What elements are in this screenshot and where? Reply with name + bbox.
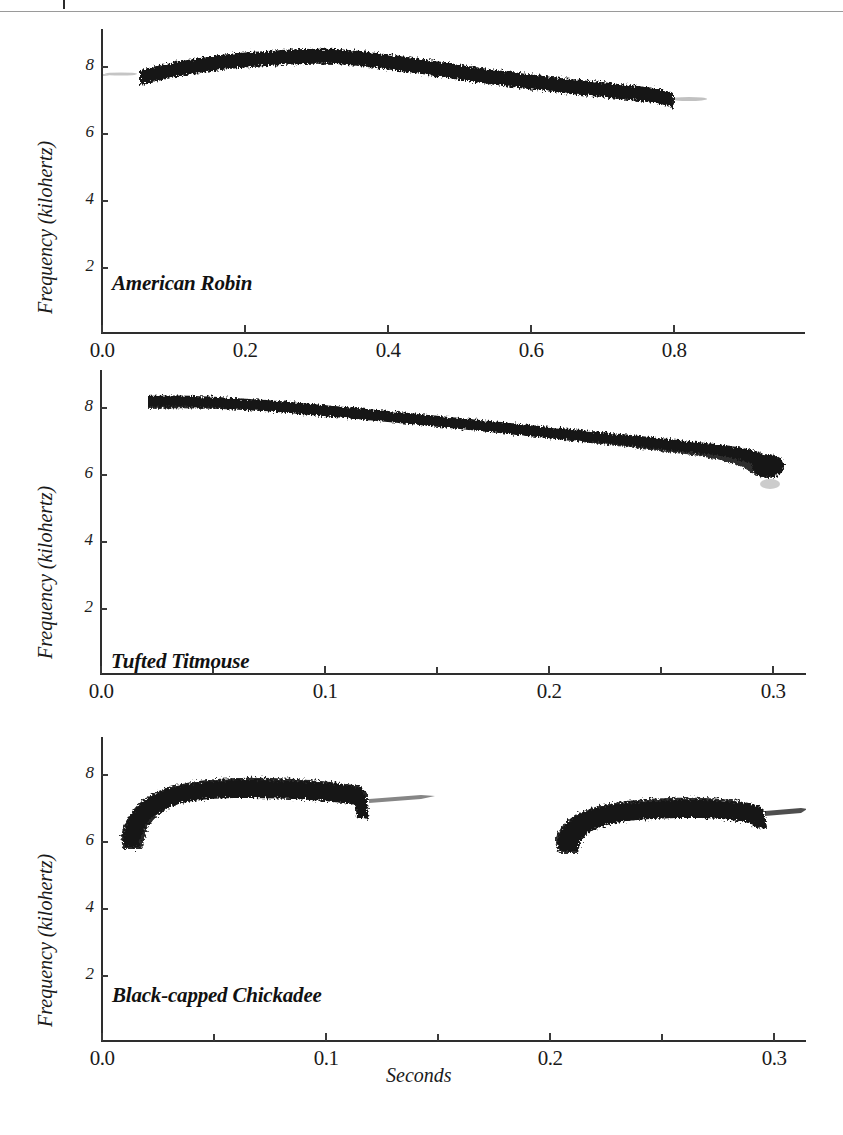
x-tick-label-2: 0.4	[353, 338, 423, 363]
panel-tufted-titmouse: Frequency (kilohertz) 8 6 4 2 0.0 0.1 0.…	[0, 367, 843, 707]
crop-mark	[63, 0, 65, 9]
y-tick-label-8: 8	[68, 55, 94, 75]
y-tick-label-6: 6	[68, 830, 94, 850]
x-axis-line	[101, 1040, 806, 1042]
top-horizontal-rule	[0, 11, 843, 12]
x-tick-label-1: 0.1	[291, 1046, 361, 1071]
y-tick-label-8: 8	[68, 763, 94, 783]
y-tick-label-6: 6	[68, 122, 94, 142]
x-axis-title: Seconds	[386, 1064, 452, 1087]
x-tick-label-1: 0.2	[210, 338, 280, 363]
x-tick-label-3: 0.6	[496, 338, 566, 363]
spectrogram-trace-chickadee	[101, 737, 806, 1040]
x-tick-label-2: 0.2	[514, 679, 584, 704]
figure-page: Frequency (kilohertz) 8 6 4 2 0.0 0.2 0.…	[0, 0, 843, 1135]
x-tick-label-1: 0.1	[290, 679, 360, 704]
y-tick-label-4: 4	[68, 189, 94, 209]
x-tick-label-3: 0.3	[739, 1046, 809, 1071]
x-tick-label-0: 0.0	[66, 679, 136, 704]
y-axis-title: Frequency (kilohertz)	[34, 486, 57, 659]
panel-black-capped-chickadee: Frequency (kilohertz) 8 6 4 2 0.0 0.1 0.…	[0, 707, 843, 1135]
x-tick-label-0: 0.0	[67, 338, 137, 363]
panel-american-robin: Frequency (kilohertz) 8 6 4 2 0.0 0.2 0.…	[0, 22, 843, 367]
x-tick-label-0: 0.0	[67, 1046, 137, 1071]
spectrogram-trace-robin	[101, 29, 805, 332]
x-tick-label-2: 0.2	[515, 1046, 585, 1071]
y-tick-label-4: 4	[67, 530, 93, 550]
x-tick-label-4: 0.8	[639, 338, 709, 363]
y-tick-label-6: 6	[67, 463, 93, 483]
y-axis-title: Frequency (kilohertz)	[34, 141, 57, 314]
y-axis-title: Frequency (kilohertz)	[34, 854, 57, 1027]
x-tick-label-3: 0.3	[738, 679, 808, 704]
y-tick-label-2: 2	[68, 964, 94, 984]
y-tick-label-4: 4	[68, 897, 94, 917]
x-axis-line	[101, 332, 805, 334]
y-tick-label-2: 2	[67, 597, 93, 617]
y-tick-label-8: 8	[67, 396, 93, 416]
spectrogram-trace-titmouse	[100, 370, 806, 673]
y-tick-label-2: 2	[68, 256, 94, 276]
